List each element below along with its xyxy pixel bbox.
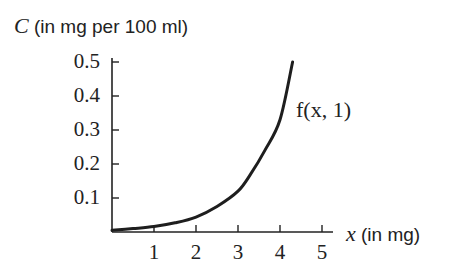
y-tick-label: 0.3 <box>50 117 100 142</box>
x-axis-variable: x <box>346 221 356 246</box>
y-tick-label: 0.2 <box>50 151 100 176</box>
curve-f-x-1 <box>112 62 293 230</box>
y-axis-label: C (in mg per 100 ml) <box>14 13 188 39</box>
y-axis-unit: (in mg per 100 ml) <box>34 16 188 37</box>
x-axis-label: x (in mg) <box>346 221 420 247</box>
curve-annotation: f(x, 1) <box>296 97 351 123</box>
x-tick-label: 4 <box>270 240 290 265</box>
x-tick-label: 5 <box>312 240 332 265</box>
y-axis-variable: C <box>14 13 29 38</box>
y-tick-marks <box>112 62 119 198</box>
x-tick-marks <box>154 225 322 232</box>
y-tick-label: 0.1 <box>50 185 100 210</box>
x-tick-label: 2 <box>186 240 206 265</box>
y-tick-label: 0.5 <box>50 49 100 74</box>
y-tick-label: 0.4 <box>50 83 100 108</box>
x-tick-label: 1 <box>144 240 164 265</box>
chart: C (in mg per 100 ml) x (in mg) f(x, 1) 0… <box>0 0 454 279</box>
x-axis-unit: (in mg) <box>361 224 420 245</box>
x-tick-label: 3 <box>228 240 248 265</box>
